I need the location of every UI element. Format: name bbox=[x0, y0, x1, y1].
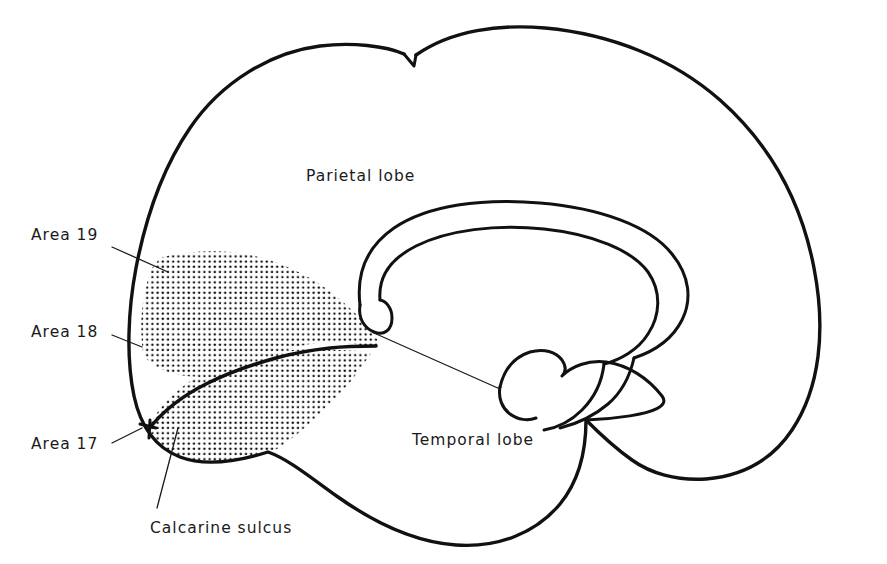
label-area-19: Area 19 bbox=[31, 228, 98, 244]
corpus-callosum-outer bbox=[359, 201, 688, 358]
leader-line-area-17 bbox=[112, 428, 142, 443]
label-area-17: Area 17 bbox=[31, 437, 98, 453]
leader-line-corpus-callosum bbox=[374, 333, 500, 389]
label-calcarine-sulcus: Calcarine sulcus bbox=[150, 521, 292, 537]
cerebral-outline-right bbox=[416, 27, 820, 479]
vertex-notch bbox=[404, 54, 416, 66]
label-temporal-lobe: Temporal lobe bbox=[412, 433, 534, 449]
brain-diagram-svg bbox=[0, 0, 887, 564]
leader-line-area-18 bbox=[112, 335, 142, 347]
brain-diagram-figure: Area 19 Area 18 Area 17 Calcarine sulcus… bbox=[0, 0, 887, 564]
label-area-18: Area 18 bbox=[31, 325, 98, 341]
label-parietal-lobe: Parietal lobe bbox=[306, 169, 415, 185]
midbrain-hook-lower bbox=[499, 387, 536, 420]
corpus-callosum-inner bbox=[380, 227, 658, 364]
